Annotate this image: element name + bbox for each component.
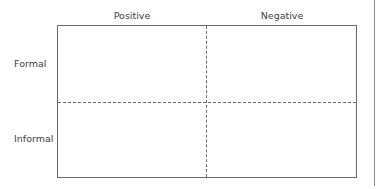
column-label-negative: Negative: [261, 10, 304, 22]
column-label-positive: Positive: [114, 10, 151, 22]
row-label-informal: Informal: [14, 133, 53, 145]
row-label-formal: Formal: [14, 58, 46, 70]
page-edge-line: [374, 0, 375, 186]
matrix-grid: [57, 25, 357, 178]
quadrant-formal-negative: [207, 26, 356, 102]
quadrant-informal-negative: [207, 103, 356, 177]
quadrant-informal-positive: [58, 103, 206, 177]
quadrant-formal-positive: [58, 26, 206, 102]
horizontal-dashed-divider: [58, 102, 356, 103]
